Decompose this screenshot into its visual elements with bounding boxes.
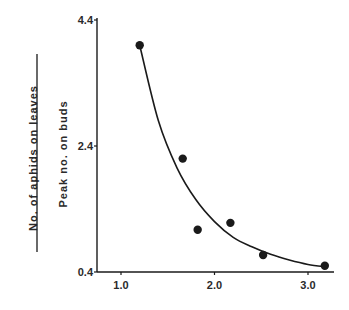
y-tick-label: 2.4 (78, 140, 94, 152)
data-point (193, 226, 201, 234)
x-tick-label: 2.0 (207, 279, 222, 291)
y-tick-label: 0.4 (78, 266, 94, 278)
x-tick-label: 3.0 (300, 279, 315, 291)
data-point (259, 251, 267, 259)
x-tick-label: 1.0 (113, 279, 128, 291)
fitted-curve (140, 45, 327, 267)
y-axis-title-denominator: Peak no. on buds (57, 100, 69, 207)
axes: 0.42.44.41.02.03.0 (78, 14, 334, 291)
data-point (136, 41, 144, 49)
data-point (179, 154, 187, 162)
data-points (136, 41, 330, 270)
y-axis-title: No. of aphids on leaves Peak no. on buds (27, 54, 69, 252)
scatter-chart: 0.42.44.41.02.03.0 No. of aphids on leav… (0, 0, 349, 310)
data-point (321, 262, 329, 270)
y-tick-label: 4.4 (78, 14, 94, 26)
data-point (226, 219, 234, 227)
